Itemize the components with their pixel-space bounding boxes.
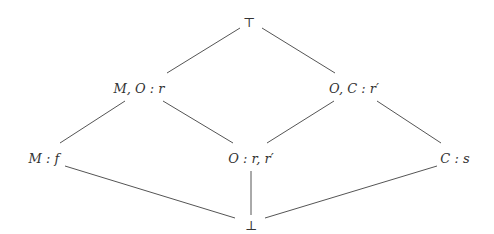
edge-oc_rp-o_rrp xyxy=(267,101,334,143)
edge-c_s-bottom xyxy=(265,166,437,218)
node-o-r-rprime: O : r, r′ xyxy=(228,152,274,165)
edge-top-oc_rp xyxy=(262,28,335,73)
edge-mo_r-o_rrp xyxy=(163,101,233,143)
node-c-s: C : s xyxy=(440,152,469,165)
edge-m_f-bottom xyxy=(65,166,235,218)
edge-top-mo_r xyxy=(167,28,240,73)
lattice-diagram: ⊤ M, O : r O, C : r′ M : f O : r, r′ C :… xyxy=(0,0,494,234)
node-oc-rprime: O, C : r′ xyxy=(329,82,379,95)
node-bottom: ⊥ xyxy=(245,219,257,232)
edges-layer xyxy=(0,0,494,234)
node-mo-r: M, O : r xyxy=(113,82,164,95)
node-top: ⊤ xyxy=(243,16,255,29)
edge-mo_r-m_f xyxy=(60,101,125,143)
node-m-f: M : f xyxy=(29,152,60,165)
edge-oc_rp-c_s xyxy=(377,101,441,143)
